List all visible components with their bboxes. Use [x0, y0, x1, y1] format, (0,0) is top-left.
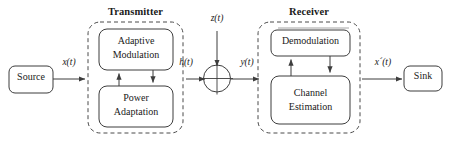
signal-label-y-t: y(t) [230, 58, 264, 68]
sink-block-label: Sink [404, 71, 442, 82]
channel-estimation-block[interactable] [271, 76, 350, 124]
signal-label-h-t: h(t) [169, 58, 203, 68]
signal-label-z-t: z(t) [200, 14, 234, 24]
signal-label-x-prime-t: x´(t) [364, 58, 402, 68]
block-diagram-canvas: Transmitter Receiver Source Adaptive Mod… [0, 0, 450, 151]
power-adaptation-label-line2: Adaptation [99, 107, 173, 118]
transmitter-group-title: Transmitter [88, 6, 183, 17]
source-block-label: Source [9, 72, 53, 83]
adaptive-modulation-label-line2: Modulation [99, 50, 173, 61]
channel-estimation-label-line2: Estimation [271, 102, 350, 113]
receiver-group-title: Receiver [258, 6, 360, 17]
adaptive-modulation-label-line1: Adaptive [99, 36, 173, 47]
demodulation-label: Demodulation [271, 36, 350, 47]
signal-label-x-t: x(t) [52, 58, 86, 68]
power-adaptation-label-line1: Power [99, 93, 173, 104]
channel-estimation-label-line1: Channel [271, 88, 350, 99]
